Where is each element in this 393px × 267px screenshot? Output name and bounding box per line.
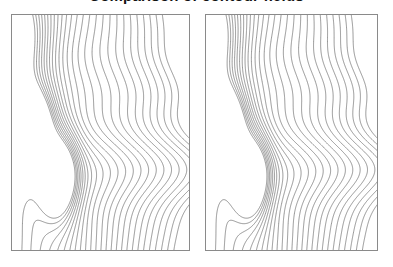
contour-line <box>31 14 77 251</box>
right-contour-canvas <box>205 14 378 251</box>
left-contour-canvas <box>11 14 190 251</box>
page-title: Comparison of contour fields <box>0 0 393 4</box>
contour-line <box>333 14 378 159</box>
right-contour-panel <box>205 14 378 251</box>
contour-line-group <box>216 14 378 251</box>
contour-line <box>224 14 268 251</box>
contour-line <box>255 14 294 251</box>
contour-line <box>162 14 190 139</box>
contour-line <box>291 14 338 251</box>
contour-line <box>351 14 378 139</box>
contour-line <box>344 181 378 251</box>
contour-line <box>108 14 156 251</box>
left-contour-panel <box>11 14 190 251</box>
contour-line-group <box>22 14 190 251</box>
contour-line <box>299 14 346 251</box>
contour-line <box>345 14 378 145</box>
contour-line <box>216 14 267 251</box>
contour-line <box>155 181 190 251</box>
contour-line <box>283 14 330 251</box>
contour-line <box>174 204 190 251</box>
contour-line <box>356 196 378 251</box>
contour-line <box>100 14 149 251</box>
contour-line <box>362 204 378 251</box>
contour-line <box>63 14 103 251</box>
contour-line <box>270 14 316 251</box>
contour-figure: Comparison of contour fields <box>0 0 393 267</box>
contour-line <box>156 14 190 145</box>
contour-line <box>92 14 141 251</box>
contour-line <box>22 14 75 251</box>
contour-line <box>143 14 190 159</box>
contour-line <box>168 196 190 251</box>
contour-line <box>78 14 126 251</box>
